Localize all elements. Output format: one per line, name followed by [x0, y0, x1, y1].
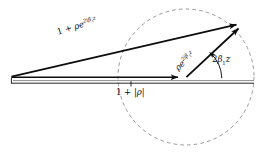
label-baseline-magnitude: 1 + |ρ|	[116, 88, 145, 97]
label-angle-tail: z	[226, 54, 230, 64]
diagram-canvas	[0, 0, 265, 161]
reflected-vector-arrow	[186, 29, 238, 78]
label-phase-angle: 2β1z	[212, 55, 230, 66]
phasor-vector-diagram: 1 + ρe2iβ1z ρe2iβ1z 2β1z 1 + |ρ|	[0, 0, 265, 161]
label-baseline-prefix: 1 + |	[116, 87, 137, 97]
resultant-vector-arrow	[12, 25, 237, 77]
label-baseline-suffix: |	[142, 87, 145, 97]
